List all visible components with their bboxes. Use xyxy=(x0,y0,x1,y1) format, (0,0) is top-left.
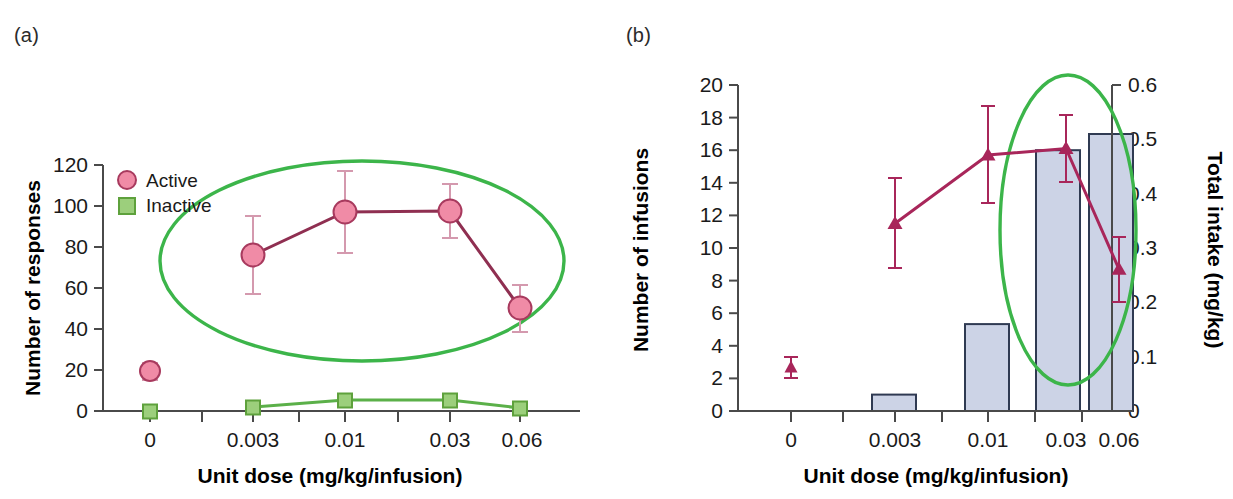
panel-b-xtick-0003: 0.003 xyxy=(869,428,922,451)
panel-b-xtick-003: 0.03 xyxy=(1046,428,1087,451)
panel-b-plot: 0 2 4 6 8 10 12 14 16 18 20 0 0.1 xyxy=(616,0,1233,499)
panel-a-ytick-120: 120 xyxy=(53,153,88,176)
panel-a-legend: Active Inactive xyxy=(118,170,211,216)
legend-label-active: Active xyxy=(146,170,198,191)
panel-b-xtick-006: 0.06 xyxy=(1099,428,1140,451)
figure-container: (a) 0 20 40 60 80 100 120 xyxy=(0,0,1233,499)
panel-a-xlabel: Unit dose (mg/kg/infusion) xyxy=(198,464,463,487)
panel-b: (b) 0 2 xyxy=(616,0,1233,499)
panel-b-ytick-0: 0 xyxy=(711,399,723,422)
panel-a-y-ticks xyxy=(94,165,103,411)
panel-b-y-ticks-left xyxy=(729,85,738,411)
panel-b-ytick-16: 16 xyxy=(700,138,723,161)
panel-a-highlight-ellipse xyxy=(160,161,564,361)
panel-a-point-active-4 xyxy=(509,297,532,320)
panel-b-xtick-001: 0.01 xyxy=(968,428,1009,451)
panel-a-ytick-60: 60 xyxy=(65,276,88,299)
panel-b-point-0 xyxy=(785,360,798,372)
panel-a-point-active-1 xyxy=(242,244,265,267)
panel-b-ylabel-right: Total intake (mg/kg) xyxy=(1204,152,1227,349)
panel-a-ytick-40: 40 xyxy=(65,317,88,340)
panel-a-point-inactive-3 xyxy=(443,394,457,408)
panel-a-series-inactive xyxy=(143,394,527,419)
panel-b-y2tick-06: 0.6 xyxy=(1128,73,1157,96)
legend-marker-inactive-icon xyxy=(119,198,135,214)
panel-b-ylabel-left: Number of infusions xyxy=(629,148,652,352)
panel-a-point-active-3 xyxy=(439,200,462,223)
panel-b-xlabel: Unit dose (mg/kg/infusion) xyxy=(804,464,1069,487)
panel-a-point-inactive-0 xyxy=(143,405,157,419)
legend-marker-active-icon xyxy=(118,171,136,189)
panel-a: (a) 0 20 40 60 80 100 120 xyxy=(0,0,616,499)
panel-b-ytick-12: 12 xyxy=(700,203,723,226)
panel-b-bar-001 xyxy=(965,324,1009,411)
panel-a-xtick-001: 0.01 xyxy=(325,428,366,451)
panel-b-ytick-20: 20 xyxy=(700,73,723,96)
panel-b-x-ticks xyxy=(791,411,1082,422)
panel-b-xtick-0: 0 xyxy=(785,428,797,451)
panel-b-ytick-10: 10 xyxy=(700,236,723,259)
panel-b-ytick-6: 6 xyxy=(711,301,723,324)
panel-a-point-inactive-4 xyxy=(513,402,527,416)
panel-a-xtick-0: 0 xyxy=(144,428,156,451)
panel-a-ytick-20: 20 xyxy=(65,358,88,381)
panel-b-bar-0003 xyxy=(872,395,916,411)
panel-b-ytick-14: 14 xyxy=(700,171,724,194)
panel-a-xtick-003: 0.03 xyxy=(430,428,471,451)
panel-a-ytick-0: 0 xyxy=(76,399,88,422)
panel-a-xtick-006: 0.06 xyxy=(502,428,543,451)
panel-a-point-inactive-1 xyxy=(246,401,260,415)
panel-a-plot: 0 20 40 60 80 100 120 0 0.003 0.01 0.0 xyxy=(0,0,616,499)
panel-a-xtick-0003: 0.003 xyxy=(227,428,280,451)
panel-a-ylabel: Number of responses xyxy=(21,180,44,396)
legend-label-inactive: Inactive xyxy=(146,195,211,216)
panel-a-point-active-2 xyxy=(334,201,357,224)
panel-a-ytick-100: 100 xyxy=(53,194,88,217)
panel-a-point-active-0 xyxy=(140,361,160,381)
panel-a-ytick-80: 80 xyxy=(65,235,88,258)
panel-b-ytick-8: 8 xyxy=(711,269,723,292)
panel-b-ytick-18: 18 xyxy=(700,106,723,129)
panel-b-ytick-2: 2 xyxy=(711,366,723,389)
panel-a-x-ticks xyxy=(150,411,520,422)
panel-b-ytick-4: 4 xyxy=(711,334,723,357)
panel-a-point-inactive-2 xyxy=(338,394,352,408)
